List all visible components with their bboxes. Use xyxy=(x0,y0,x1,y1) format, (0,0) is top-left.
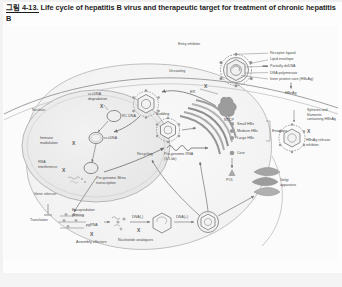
label-er: ER xyxy=(190,90,195,94)
nucleotide-analogues-x: X xyxy=(137,228,140,233)
label-large-hbs: Large HBs xyxy=(237,136,254,140)
label-pol: POL xyxy=(226,178,233,182)
label-immune-modulation: Immune modulation xyxy=(40,136,68,145)
label-dna-minus: DNA(-) xyxy=(132,215,143,219)
hbsag-release-inhibitor-x: X xyxy=(307,129,310,134)
legend-receptor-ligand: Receptor ligand xyxy=(270,51,295,55)
label-small-hbs: Small HBs xyxy=(237,122,254,126)
label-rna-interference: RNA interference xyxy=(38,160,64,169)
label-gene-silencer: Gene silencer xyxy=(34,192,58,197)
label-nucleus: Nucleus xyxy=(32,108,45,112)
immune-modulation-x: X xyxy=(72,141,75,146)
figure-root: 그림 4-13. Life cycle of hepatitis B virus… xyxy=(0,0,342,287)
label-pregenomic-transcription: Pre-genomic Mrna transcription xyxy=(96,176,138,185)
label-hbsag-release-inhibitor: HBsAg release inhibitor xyxy=(306,138,334,147)
core-protein-marker xyxy=(230,151,235,156)
label-assembly-effectors: Assembly effectors xyxy=(76,240,108,245)
label-uncoating: Uncoating xyxy=(169,69,185,73)
label-spheres-filaments: Spheres and filaments containing HBsAg xyxy=(307,108,337,122)
mature-capsid xyxy=(198,212,219,233)
cccdna-degradation-x: X xyxy=(100,104,103,109)
label-recycling: Recycling xyxy=(137,152,153,156)
label-hbeag: HBeAg xyxy=(285,91,297,95)
entry-inhibitor-x: X xyxy=(204,84,207,89)
label-entry-inhibitor: Entry inhibitor xyxy=(178,42,200,46)
legend-lipid-envelope: Lipid envelope xyxy=(270,57,293,61)
label-medium-hbs: Medium HBs xyxy=(237,129,258,133)
medium-hbs-marker xyxy=(230,129,234,133)
label-translation: Translation xyxy=(30,218,48,222)
label-ntcp: NTCP xyxy=(224,118,234,122)
large-hbs-marker xyxy=(230,136,234,140)
label-budding: Budding xyxy=(156,112,169,116)
label-pregenomic-rna: Pre-genomic RNA (3.5 kb) xyxy=(164,152,200,161)
figure-caption: 그림 4-13. Life cycle of hepatitis B virus… xyxy=(6,3,336,24)
label-golgi: Golgi apparatus xyxy=(280,178,304,187)
top-scan-band xyxy=(0,0,342,2)
golgi-apparatus xyxy=(252,168,280,196)
assembly-effectors-x: X xyxy=(90,232,93,237)
label-rc-dna: RC DNA xyxy=(122,114,136,118)
label-dna-plus: DNA(+) xyxy=(176,215,188,219)
rna-interference-x: X xyxy=(62,168,65,173)
label-cccdna: cccDNA xyxy=(104,136,117,140)
label-envelope-bracket: Envelope xyxy=(272,129,287,133)
legend-inner-protein-core: Inner protein core (HBcAg) xyxy=(270,77,313,81)
figure-caption-text: Life cycle of hepatitis B virus and ther… xyxy=(6,3,336,23)
legend-dna-polymerase: DNA polymerase xyxy=(270,71,297,75)
label-nucleotide-analogues: Nucleotide analogues xyxy=(118,238,153,242)
legend-partially-dsdna: Partially dsDNA xyxy=(270,64,295,68)
small-hbs-marker xyxy=(230,122,234,126)
label-core: Core xyxy=(237,151,245,155)
label-encapsidation-priming: Encapsidation priming xyxy=(72,208,106,217)
diagram-canvas: Receptor ligand Lipid envelope Partially… xyxy=(4,26,338,260)
bottom-scan-band xyxy=(0,273,342,287)
figure-number: 그림 4-13. xyxy=(6,3,39,13)
left-scan-edge xyxy=(0,0,3,287)
label-pgrna: pgRNA xyxy=(86,223,98,227)
label-cccdna-degradation: cccDNA degradation xyxy=(88,92,118,101)
